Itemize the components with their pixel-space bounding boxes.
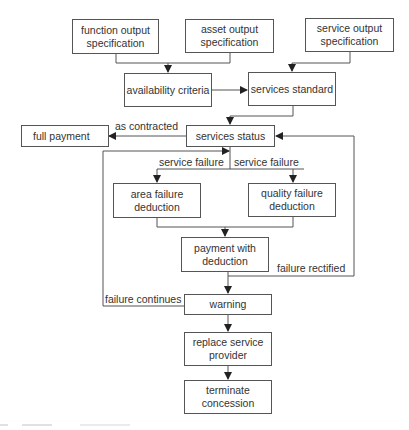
node-service-output-specification: service output specification [305,18,394,52]
node-label: terminate concession [185,384,271,410]
node-label: warning [210,298,247,311]
figure-caption-clipped [0,424,130,426]
node-label: quality failure deduction [249,187,335,213]
edge-label-as-contracted: as contracted [115,120,178,132]
node-asset-output-specification: asset output specification [185,19,274,53]
node-availability-criteria: availability criteria [124,73,212,107]
node-label: replace service provider [185,336,271,362]
node-function-output-specification: function output specification [72,19,159,54]
edge-label-service-failure-right: service failure [234,156,299,168]
node-label: services standard [251,83,333,96]
node-services-standard: services standard [248,72,336,106]
node-label: asset output specification [186,23,273,49]
node-label: availability criteria [127,84,210,97]
node-quality-failure-deduction: quality failure deduction [248,183,336,217]
edge-label-failure-rectified: failure rectified [277,262,345,274]
node-replace-service-provider: replace service provider [184,332,272,366]
node-label: payment with deduction [182,242,268,268]
node-label: services status [196,130,265,143]
node-label: area failure deduction [114,188,200,214]
node-label: full payment [33,130,90,143]
node-area-failure-deduction: area failure deduction [113,183,201,218]
node-payment-with-deduction: payment with deduction [181,237,269,272]
node-terminate-concession: terminate concession [184,380,272,414]
node-warning: warning [184,294,272,315]
edge-label-failure-continues: failure continues [105,293,181,305]
node-services-status: services status [186,125,275,147]
node-label: function output specification [73,24,158,50]
node-full-payment: full payment [21,125,109,147]
node-label: service output specification [306,22,393,48]
edge-label-service-failure-left: service failure [159,156,224,168]
